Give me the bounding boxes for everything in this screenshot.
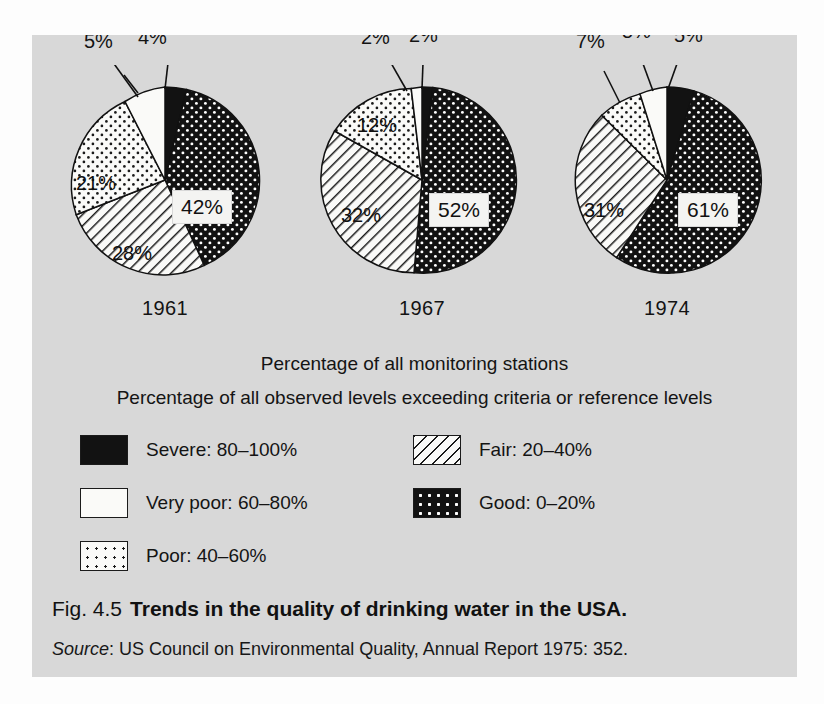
legend-swatch-poor-icon [80,541,128,571]
subtitle-monitoring-stations: Percentage of all monitoring stations [32,353,797,375]
pie-label-1961-poor: 21% [76,173,116,193]
legend-swatch-severe-icon [80,435,128,465]
pie-label-1961-good: 42% [172,190,232,224]
subtitle-observed-levels: Percentage of all observed levels exceed… [32,387,797,409]
pie-label-1967-severe: 2% [409,35,438,45]
pie-year-1974: 1974 [552,297,782,320]
legend-label-poor: Poor: 40–60% [146,545,266,567]
pie-label-1967-poor: 12% [357,115,397,135]
pie-label-1967-fair: 32% [341,205,381,225]
legend-swatch-fair-icon [413,435,461,465]
pie-graphic-1967 [307,65,537,295]
legend-label-very-poor: Very poor: 60–80% [146,492,308,514]
legend-item-fair: Fair: 20–40% [413,433,592,467]
legend-label-severe: Severe: 80–100% [146,439,297,461]
leader-1974-severe [668,65,678,89]
pie-label-1974-fair: 31% [584,200,624,220]
source-label: Source [52,639,109,659]
pie-year-1961: 1961 [50,297,280,320]
figure-caption: Fig. 4.5Trends in the quality of drinkin… [52,597,792,621]
pie-label-1974-severe: 5% [674,35,703,45]
legend-swatch-good-icon [413,488,461,518]
leader-1967-severe [422,65,423,89]
figure-number: Fig. 4.5 [52,597,122,620]
leader-1961-verypoor [112,65,138,97]
pie-label-1974-good: 61% [678,193,738,227]
pie-svg-1967 [307,65,537,295]
legend-item-good: Good: 0–20% [413,486,595,520]
legend-item-very-poor: Very poor: 60–80% [80,486,308,520]
pie-label-1961-verypoor: 5% [84,35,113,51]
source-text: : US Council on Environmental Quality, A… [109,639,628,659]
legend-label-good: Good: 0–20% [479,492,595,514]
leader-tick-1961-verypoor [124,75,138,93]
pie-label-1961-severe: 4% [138,35,167,47]
pie-chart-1967: 2% 2% 52% 12% 32% 1967 [307,35,537,335]
legend-item-poor: Poor: 40–60% [80,539,266,573]
pie-chart-1961: 5% 4% 42% 21% 28% 1961 [50,35,280,335]
figure-source: Source: US Council on Environmental Qual… [52,639,792,660]
pie-label-1974-poor: 7% [576,35,605,51]
slice-1967-good [414,88,516,274]
figure-title: Trends in the quality of drinking water … [130,597,627,620]
legend-item-severe: Severe: 80–100% [80,433,297,467]
pie-label-1961-fair: 28% [112,243,152,263]
pie-label-1967-good: 52% [429,193,489,227]
pie-graphic-1974 [552,65,782,295]
pie-label-1974-verypoor: 5% [622,35,651,41]
leader-1974-poor [604,71,620,103]
pie-svg-1974 [552,65,782,295]
leader-1967-verypoor [391,65,407,91]
figure-panel: 5% 4% 42% 21% 28% 1961 [32,35,797,677]
leader-1974-verypoor [642,65,653,91]
pie-label-1967-verypoor: 2% [361,35,390,47]
legend: Severe: 80–100% Very poor: 60–80% Poor: … [80,433,760,583]
leader-1961-severe [165,65,168,89]
legend-swatch-very-poor-icon [80,488,128,518]
pie-chart-1974: 7% 5% 5% 61% 31% 1974 [552,35,782,335]
pie-chart-row: 5% 4% 42% 21% 28% 1961 [32,35,797,335]
legend-label-fair: Fair: 20–40% [479,439,592,461]
pie-year-1967: 1967 [307,297,537,320]
